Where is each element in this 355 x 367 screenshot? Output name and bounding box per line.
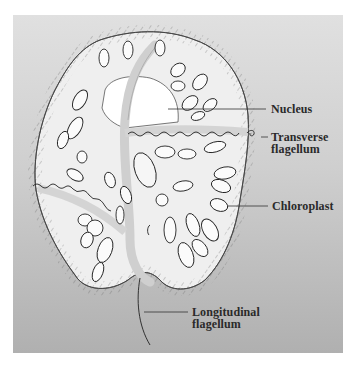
label-transverse-flagellum-line2: flagellum [271,143,320,155]
dinoflagellate-illustration [0,0,355,367]
label-nucleus: Nucleus [271,103,312,115]
label-chloroplast: Chloroplast [272,200,334,212]
label-longitudinal-flagellum-line2: flagellum [192,318,241,330]
